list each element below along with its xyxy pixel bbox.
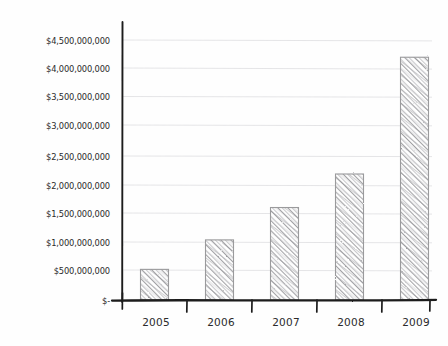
y-tick-label-2000000000: $2,000,000,000 (46, 181, 110, 191)
bar-2006 (206, 240, 234, 300)
y-tick-label-2500000000: $2,500,000,000 (46, 152, 110, 162)
bar-2008 (336, 174, 364, 300)
x-tick-label-2006: 2006 (207, 316, 235, 328)
y-tick-label-1500000000: $1,500,000,000 (46, 209, 110, 219)
x-tick-label-2007: 2007 (272, 316, 300, 328)
x-tick-label-2008: 2008 (337, 316, 365, 328)
y-tick-label-500000000: $500,000,000 (54, 266, 110, 276)
y-tick-label-3500000000: $3,500,000,000 (46, 92, 110, 102)
y-tick-label-1000000000: $1,000,000,000 (46, 238, 110, 248)
y-tick-label-zero: $- (102, 296, 110, 306)
y-tick-label-3000000000: $3,000,000,000 (46, 121, 110, 131)
x-tick-label-2009: 2009 (402, 316, 430, 328)
y-axis-labels: $4,500,000,000 $4,000,000,000 $3,500,000… (46, 36, 110, 307)
bar-2005 (141, 269, 169, 300)
y-tick-label-4000000000: $4,000,000,000 (46, 64, 110, 74)
bar-2007 (271, 208, 299, 300)
bars (141, 57, 429, 300)
bar-chart: $4,500,000,000 $4,000,000,000 $3,500,000… (0, 0, 448, 346)
bar-2009 (401, 57, 429, 300)
y-tick-label-4500000000: $4,500,000,000 (46, 36, 110, 46)
x-tick-label-2005: 2005 (142, 316, 170, 328)
chart-canvas: $4,500,000,000 $4,000,000,000 $3,500,000… (0, 0, 448, 346)
x-axis-labels: 2005 2006 2007 2008 2009 (142, 316, 430, 328)
